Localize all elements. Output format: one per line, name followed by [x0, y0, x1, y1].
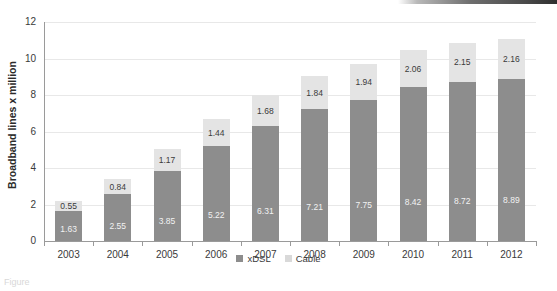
bar-group[interactable]: 3.851.17: [154, 22, 181, 241]
bar-segment-xdsl[interactable]: [449, 82, 476, 241]
bar-value-label-cable: 1.68: [252, 106, 279, 116]
plot-area: 0246810121.630.5520032.550.8420043.851.1…: [44, 22, 536, 241]
bar-segment-xdsl[interactable]: [203, 146, 230, 241]
figure-caption: Figure: [4, 277, 30, 287]
bar-value-label-cable: 1.94: [350, 77, 377, 87]
x-axis-tick: [290, 241, 291, 246]
y-axis-tick-label: 6: [12, 126, 36, 137]
legend-item-xdsl: xDSL: [236, 253, 270, 264]
x-axis-tick: [142, 241, 143, 246]
bar-group[interactable]: 8.422.06: [400, 22, 427, 241]
bar-group[interactable]: 5.221.44: [203, 22, 230, 241]
x-axis-tick: [487, 241, 488, 246]
chart-legend: xDSL Cable: [0, 253, 557, 264]
bar-value-label-xdsl: 7.75: [350, 200, 377, 210]
x-axis-tick: [438, 241, 439, 246]
bar-value-label-cable: 1.84: [301, 88, 328, 98]
bar-segment-xdsl[interactable]: [301, 109, 328, 241]
y-axis-tick-label: 12: [12, 16, 36, 27]
bar-value-label-xdsl: 1.63: [55, 224, 82, 234]
x-axis-tick: [192, 241, 193, 246]
bar-value-label-cable: 2.15: [449, 57, 476, 67]
y-axis-tick-label: 0: [12, 235, 36, 246]
bar-group[interactable]: 6.311.68: [252, 22, 279, 241]
bar-value-label-xdsl: 8.42: [400, 197, 427, 207]
bar-value-label-xdsl: 6.31: [252, 206, 279, 216]
x-axis-tick: [339, 241, 340, 246]
y-axis-tick-label: 2: [12, 199, 36, 210]
bar-value-label-cable: 2.06: [400, 64, 427, 74]
y-axis-line: [44, 22, 45, 241]
y-axis-tick-label: 8: [12, 89, 36, 100]
bar-group[interactable]: 2.550.84: [104, 22, 131, 241]
bar-group[interactable]: 7.211.84: [301, 22, 328, 241]
bar-value-label-xdsl: 5.22: [203, 210, 230, 220]
bar-segment-xdsl[interactable]: [400, 87, 427, 241]
legend-swatch-cable-icon: [285, 255, 292, 262]
bar-value-label-cable: 2.16: [498, 54, 525, 64]
bar-segment-xdsl[interactable]: [498, 79, 525, 241]
bar-segment-xdsl[interactable]: [154, 171, 181, 241]
bar-group[interactable]: 8.892.16: [498, 22, 525, 241]
bar-value-label-xdsl: 2.55: [104, 221, 131, 231]
y-axis-tick-label: 10: [12, 53, 36, 64]
bar-value-label-xdsl: 7.21: [301, 202, 328, 212]
bar-group[interactable]: 7.751.94: [350, 22, 377, 241]
bar-segment-xdsl[interactable]: [350, 100, 377, 241]
bar-value-label-cable: 1.17: [154, 155, 181, 165]
bar-value-label-xdsl: 3.85: [154, 216, 181, 226]
x-axis-tick: [536, 241, 537, 246]
bar-value-label-cable: 0.55: [55, 201, 82, 211]
bar-group[interactable]: 8.722.15: [449, 22, 476, 241]
bar-segment-xdsl[interactable]: [104, 194, 131, 241]
legend-item-cable: Cable: [285, 253, 321, 264]
bar-group[interactable]: 1.630.55: [55, 22, 82, 241]
bar-value-label-cable: 1.44: [203, 128, 230, 138]
x-axis-tick: [44, 241, 45, 246]
bar-value-label-xdsl: 8.72: [449, 196, 476, 206]
stacked-bar-chart: Broadband lines x million 0246810121.630…: [0, 0, 557, 291]
legend-swatch-xdsl-icon: [236, 255, 243, 262]
legend-label-xdsl: xDSL: [247, 253, 270, 264]
bar-value-label-xdsl: 8.89: [498, 195, 525, 205]
x-axis-tick: [388, 241, 389, 246]
x-axis-tick: [241, 241, 242, 246]
x-axis-tick: [93, 241, 94, 246]
y-axis-tick-label: 4: [12, 162, 36, 173]
bar-value-label-cable: 0.84: [104, 182, 131, 192]
bar-segment-xdsl[interactable]: [252, 126, 279, 241]
legend-label-cable: Cable: [296, 253, 321, 264]
